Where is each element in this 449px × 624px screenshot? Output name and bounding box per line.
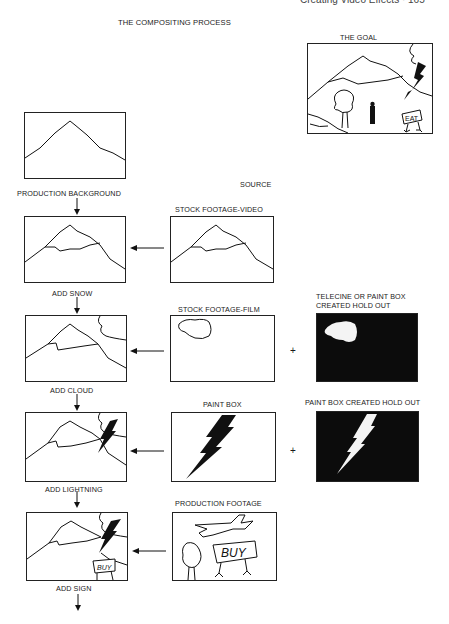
goal-sign-text: EAT [405,115,419,122]
production-footage-frame: BUY [172,512,277,581]
goal-label: THE GOAL [340,33,377,42]
production-background-frame [24,112,126,179]
production-background-label: PRODUCTION BACKGROUND [17,189,121,198]
arrow-left-icon [130,347,164,355]
add-sign-label: ADD SIGN [56,584,92,593]
add-cloud-label: ADD CLOUD [50,386,93,395]
plus-sign: + [290,345,296,356]
arrow-down-icon [74,594,82,612]
running-header: Creating Video Effects · 165 [300,0,425,5]
add-snow-frame [24,216,126,283]
add-cloud-frame [25,315,127,382]
production-footage-label: PRODUCTION FOOTAGE [175,499,262,508]
paint-box-label: PAINT BOX [203,400,242,409]
holdout-cloud-label-line2: CREATED HOLD OUT [316,301,391,310]
holdout-cloud-label-line1: TELECINE OR PAINT BOX [316,292,406,301]
arrow-down-icon [73,394,81,412]
stock-footage-video-frame [170,216,274,283]
arrow-down-icon [73,297,81,315]
stock-footage-film-label: STOCK FOOTAGE-FILM [178,305,260,314]
arrow-left-icon [130,447,164,455]
add-lightning-frame [25,412,127,482]
page-title: THE COMPOSITING PROCESS [118,18,231,27]
arrow-left-icon [130,244,164,252]
arrow-down-icon [73,491,81,509]
source-heading: SOURCE [240,180,271,189]
lightning-holdout-matte [316,411,419,482]
holdout-lightning-label: PAINT BOX CREATED HOLD OUT [305,398,420,407]
sign-text: BUY [97,564,113,571]
production-sign-text: BUY [221,546,247,560]
paint-box-frame [171,412,276,482]
arrow-left-icon [132,547,166,555]
stock-footage-film-frame [170,315,275,382]
stock-footage-video-label: STOCK FOOTAGE-VIDEO [175,205,263,214]
goal-frame: EAT [307,43,433,134]
add-sign-frame: BUY [26,512,128,581]
goal-illustration: EAT [308,44,432,133]
plus-sign: + [290,445,296,456]
arrow-down-icon [73,198,81,216]
cloud-holdout-matte [316,313,418,382]
